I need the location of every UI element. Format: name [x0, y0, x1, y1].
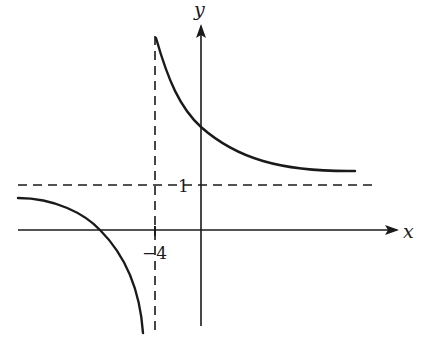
right-branch-curve: [156, 38, 355, 171]
x-tick-label: −4: [142, 243, 167, 263]
y-tick-label: 1: [178, 176, 189, 196]
left-branch-curve: [18, 198, 143, 333]
x-axis-label: x: [403, 220, 414, 242]
function-graph: y x 1 −4: [0, 0, 426, 347]
y-axis-label: y: [193, 0, 205, 20]
